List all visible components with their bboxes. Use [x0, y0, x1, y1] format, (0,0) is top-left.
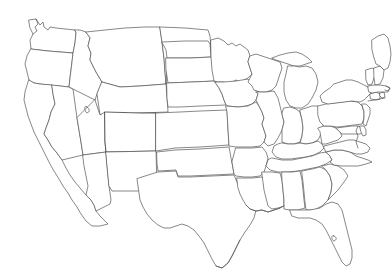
us-state-locator-map: Map of the United States with Colorado h…	[0, 0, 392, 273]
state-kansas	[156, 110, 229, 151]
state-alabama	[282, 171, 305, 210]
state-wyoming	[97, 82, 168, 115]
state-south-dakota	[166, 57, 215, 83]
state-colorado-highlighted	[105, 112, 156, 152]
state-indiana	[282, 107, 303, 144]
state-rhode-island	[380, 92, 385, 98]
state-north-dakota-body	[162, 41, 211, 58]
state-pennsylvania	[318, 101, 364, 127]
state-oregon	[25, 49, 73, 87]
us-map-svg	[0, 0, 392, 273]
